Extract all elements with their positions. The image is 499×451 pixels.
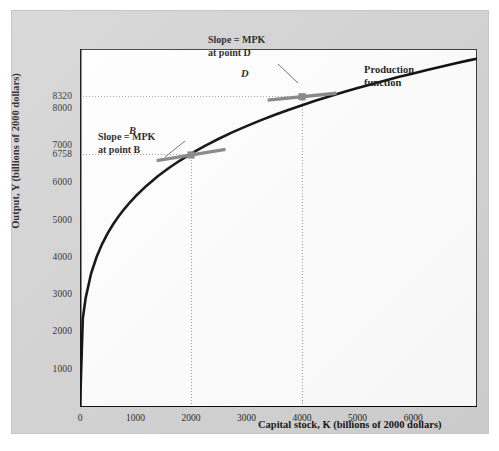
point-label-d: D xyxy=(241,68,249,79)
figure-container: Output, Y (billions of 2000 dollars) Cap… xyxy=(0,0,499,451)
plot-area xyxy=(80,49,477,407)
annotation-slope-b-line2: at point B xyxy=(98,144,155,157)
annotation-slope-b: Slope = MPK at point B xyxy=(98,131,155,156)
x-tick-label: 0 xyxy=(55,413,105,423)
annotation-slope-b-line1: Slope = MPK xyxy=(98,131,155,144)
x-tick-label: 4000 xyxy=(277,413,327,423)
y-tick-label: 8320 xyxy=(12,91,72,101)
y-tick-label: 6758 xyxy=(12,149,72,159)
y-tick-label: 2000 xyxy=(12,326,72,336)
y-tick-label: 4000 xyxy=(12,252,72,262)
x-tick-label: 6000 xyxy=(388,413,438,423)
production-function-line2: function xyxy=(364,76,414,89)
y-axis-title: Output, Y (billions of 2000 dollars) xyxy=(10,0,21,51)
y-tick-label: 1000 xyxy=(12,364,72,374)
y-tick-label: 7000 xyxy=(12,140,72,150)
x-tick-label: 1000 xyxy=(111,413,161,423)
plot-frame xyxy=(81,50,477,407)
y-tick-label: 8000 xyxy=(12,103,72,113)
x-tick-label: 3000 xyxy=(222,413,272,423)
chart-svg xyxy=(80,49,477,407)
data-point-d xyxy=(298,93,305,100)
annotation-slope-d: Slope = MPK at point D xyxy=(208,34,265,59)
production-function-line1: Production xyxy=(364,63,414,76)
y-tick-label: 3000 xyxy=(12,289,72,299)
leader-line-d xyxy=(278,64,298,83)
x-tick-label: 2000 xyxy=(166,413,216,423)
data-point-b xyxy=(187,151,194,158)
annotation-slope-d-line1: Slope = MPK xyxy=(208,34,265,47)
production-function-curve xyxy=(80,59,477,407)
point-label-b: B xyxy=(129,125,136,136)
figure-panel: Output, Y (billions of 2000 dollars) Cap… xyxy=(12,11,488,433)
axis-spines xyxy=(81,49,478,407)
y-tick-label: 5000 xyxy=(12,215,72,225)
y-tick-label: 6000 xyxy=(12,177,72,187)
annotation-slope-d-line2: at point D xyxy=(208,47,265,60)
x-tick-label: 5000 xyxy=(333,413,383,423)
annotation-production-function: Production function xyxy=(364,63,414,89)
